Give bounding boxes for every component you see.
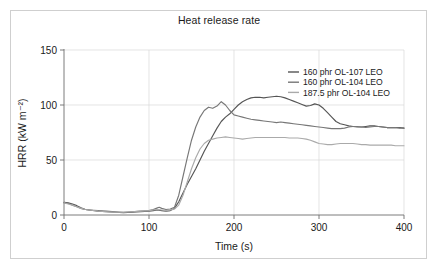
x-tick-label: 0 [61,222,67,233]
chart-plot-area: 0501001500100200300400 160 phr OL-107 LE… [0,0,438,270]
x-tick-label: 100 [141,222,158,233]
chart-figure: Heat release rate 0501001500100200300400… [0,0,438,270]
y-tick-label: 100 [40,100,57,111]
legend-label-1: 160 phr OL-107 LEO [303,67,383,77]
legend-label-2: 160 phr OL-104 LEO [303,77,383,87]
y-axis-title: HRR (kW m⁻²) [16,99,28,168]
x-tick-label: 200 [226,222,243,233]
x-tick-label: 400 [396,222,413,233]
x-tick-label: 300 [311,222,328,233]
y-tick-label: 0 [51,210,57,221]
legend-label-3: 187.5 phr OL-104 LEO [303,88,390,98]
chart-legend: 160 phr OL-107 LEO160 phr OL-104 LEO187.… [288,67,390,97]
x-axis-title: Time (s) [215,240,253,252]
y-tick-label: 150 [40,45,57,56]
y-tick-label: 50 [46,155,58,166]
